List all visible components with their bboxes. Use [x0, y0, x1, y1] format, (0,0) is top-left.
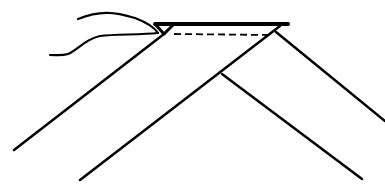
background: [0, 0, 385, 191]
fold-diagram: [0, 0, 385, 191]
fold-line: [174, 34, 272, 35]
